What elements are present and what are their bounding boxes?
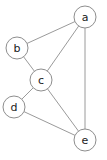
graph-svg-canvas: abcde [0, 0, 107, 160]
graph-node-label-b: b [14, 42, 21, 55]
graph-node-d[interactable]: d [3, 96, 25, 118]
graph-node-e[interactable]: e [74, 129, 96, 151]
graph-diagram: abcde [0, 0, 107, 160]
graph-node-label-d: d [11, 101, 18, 114]
graph-node-b[interactable]: b [6, 37, 28, 59]
graph-node-c[interactable]: c [30, 69, 52, 91]
graph-edge-c-d [22, 88, 33, 99]
graph-node-label-a: a [82, 11, 89, 24]
graph-edge-a-b [27, 22, 75, 44]
graph-node-a[interactable]: a [74, 6, 96, 28]
graph-edge-a-c [47, 26, 78, 71]
graph-node-label-c: c [38, 74, 44, 87]
node-layer: abcde [3, 6, 96, 151]
graph-node-label-e: e [82, 134, 89, 147]
graph-edge-b-c [24, 57, 35, 71]
